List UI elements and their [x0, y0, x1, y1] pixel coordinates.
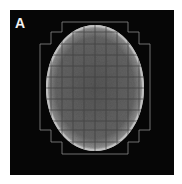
segmentation-figure — [0, 0, 182, 184]
panel-label: A — [15, 16, 25, 30]
